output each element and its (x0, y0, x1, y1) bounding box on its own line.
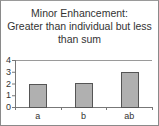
x-tick-label: b (69, 111, 99, 121)
x-tick-label: ab (114, 111, 144, 121)
y-tick-label: 0 (1, 102, 11, 112)
plot-area: 01234 abab (0, 0, 159, 126)
bar-a (30, 85, 47, 108)
bar-ab (122, 73, 139, 108)
x-tick-label: a (23, 111, 53, 121)
y-tick-label: 2 (1, 79, 11, 89)
y-tick-label: 4 (1, 55, 11, 65)
y-tick-label: 3 (1, 67, 11, 77)
bar-chart (0, 0, 159, 126)
y-tick-label: 1 (1, 90, 11, 100)
bar-b (76, 84, 93, 108)
